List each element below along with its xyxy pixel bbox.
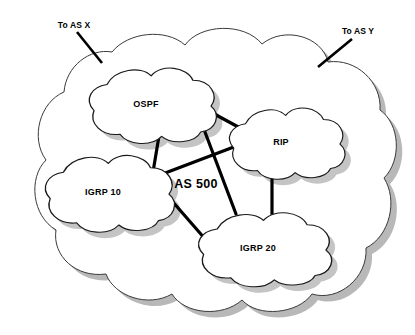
to-as-x-label: To AS X [58, 20, 90, 30]
as500-label: AS 500 [174, 177, 218, 191]
network-diagram: OSPF RIP IGRP 10 IGRP 20 AS 500 To AS X … [0, 0, 415, 335]
to-as-y-label: To AS Y [342, 26, 374, 36]
diagram-canvas [0, 0, 415, 335]
